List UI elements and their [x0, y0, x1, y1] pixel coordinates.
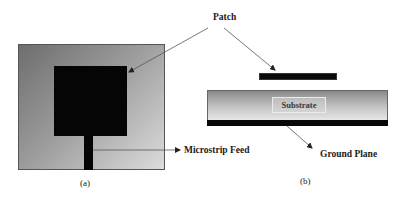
microstrip-feed-label: Microstrip Feed: [184, 145, 250, 155]
caption-b: (b): [300, 176, 311, 186]
ground-plane-arrow: [287, 126, 312, 148]
patch-label: Patch: [213, 12, 236, 22]
caption-a: (a): [80, 178, 90, 188]
patch-arrow-to-side-view: [224, 28, 275, 70]
ground-plane-label: Ground Plane: [320, 149, 377, 159]
patch-arrow-to-top-view: [129, 28, 208, 72]
arrows-layer: [0, 0, 406, 203]
